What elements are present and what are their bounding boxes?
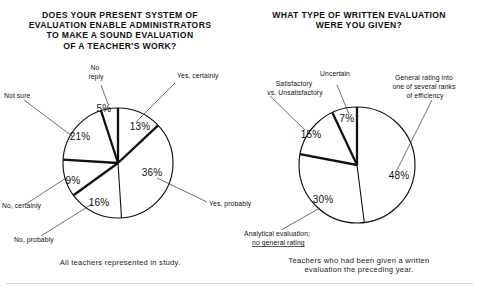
pie-value-no-reply-left: 5% bbox=[97, 103, 112, 114]
pie-label-no-reply-left: No reply bbox=[88, 64, 104, 81]
pie-value-uncertain-right: 7% bbox=[340, 113, 355, 124]
pie-value-no-certainly-left: 9% bbox=[66, 175, 81, 186]
leader-no-reply-left bbox=[101, 85, 108, 104]
pie-label-satisfactory-right: Satisfactory vs. Unsatisfactory bbox=[267, 80, 323, 97]
figure-bottom-rule bbox=[6, 283, 473, 284]
pie-spoke-no-certainly-left bbox=[63, 160, 118, 163]
pie-value-yes-probably-left: 36% bbox=[142, 167, 163, 178]
leader-no-probably-left bbox=[41, 204, 92, 236]
pie-spoke-yes-probably-left bbox=[118, 163, 122, 218]
pie-spoke-analytical-right bbox=[300, 154, 357, 165]
analytical-line-1: Analytical evaluation; bbox=[244, 230, 310, 238]
leader-not-sure-left bbox=[24, 100, 72, 136]
pie-chart-right: 7% 48% 30% 15% Uncertain Satisfactory vs… bbox=[239, 52, 479, 282]
leader-satisfactory-right bbox=[270, 96, 305, 130]
leader-analytical-right bbox=[281, 208, 320, 230]
leader-no-certainly-left bbox=[26, 178, 66, 204]
chart-panel-left: DOES YOUR PRESENT SYSTEM OF EVALUATION E… bbox=[0, 0, 240, 289]
pie-value-analytical-right: 30% bbox=[313, 194, 334, 205]
pie-label-no-certainly-left: No, certainly bbox=[2, 202, 42, 210]
leader-yes-certainly-left bbox=[136, 83, 175, 122]
pie-label-yes-certainly-left: Yes, certainly bbox=[177, 72, 219, 80]
chart-title-left: DOES YOUR PRESENT SYSTEM OF EVALUATION E… bbox=[0, 10, 240, 51]
panel-divider bbox=[239, 4, 240, 280]
pie-spoke-general-rating-right bbox=[357, 165, 364, 223]
pie-value-satisfactory-right: 15% bbox=[301, 129, 322, 140]
pie-chart-left: 5% 13% 36% 16% 9% 21% No reply Yes, cert… bbox=[0, 52, 240, 282]
pie-label-analytical-right: Analytical evaluation; no general rating bbox=[244, 230, 312, 247]
pie-label-general-rating-right: General rating into one of several ranks… bbox=[392, 74, 457, 100]
pie-spoke-not-sure-left bbox=[101, 111, 118, 163]
pie-label-not-sure-left: Not sure bbox=[4, 92, 31, 99]
pie-label-uncertain-right: Uncertain bbox=[320, 70, 350, 77]
chart-caption-right: Teachers who had been given a written ev… bbox=[239, 256, 479, 275]
pie-value-no-probably-left: 16% bbox=[89, 197, 110, 208]
analytical-line-2: no general rating bbox=[252, 239, 305, 247]
leader-yes-probably-left bbox=[157, 178, 207, 202]
pie-value-yes-certainly-left: 13% bbox=[130, 121, 151, 132]
pie-value-general-rating-right: 48% bbox=[389, 170, 410, 181]
chart-panel-right: WHAT TYPE OF WRITTEN EVALUATION WERE YOU… bbox=[239, 0, 479, 289]
chart-title-right: WHAT TYPE OF WRITTEN EVALUATION WERE YOU… bbox=[239, 10, 479, 30]
pie-value-not-sure-left: 21% bbox=[70, 131, 91, 142]
two-pie-chart-figure: DOES YOUR PRESENT SYSTEM OF EVALUATION E… bbox=[0, 0, 479, 289]
chart-caption-left: All teachers represented in study. bbox=[0, 258, 240, 267]
pie-label-no-probably-left: No, probably bbox=[14, 236, 54, 244]
leader-general-rating-right bbox=[396, 100, 432, 172]
